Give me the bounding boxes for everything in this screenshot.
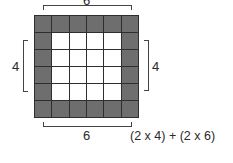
inner-cell (52, 33, 68, 49)
inner-cell (52, 84, 68, 100)
left-label: 4 (12, 60, 19, 73)
inner-cell (70, 50, 86, 66)
inner-cell (87, 67, 103, 83)
shaded-border-cell (87, 101, 103, 117)
inner-cell (104, 84, 120, 100)
inner-cell (70, 33, 86, 49)
shaded-border-cell (52, 101, 68, 117)
inner-cell (87, 84, 103, 100)
shaded-border-cell (122, 50, 138, 66)
left-bracket (23, 40, 28, 92)
bottom-bracket (43, 122, 132, 127)
shaded-border-cell (35, 67, 51, 83)
shaded-border-cell (122, 67, 138, 83)
inner-cell (104, 50, 120, 66)
shaded-border-cell (35, 101, 51, 117)
right-bracket (144, 40, 149, 91)
bottom-label: 6 (83, 129, 90, 142)
shaded-border-cell (35, 50, 51, 66)
shaded-border-cell (87, 16, 103, 32)
inner-cell (52, 67, 68, 83)
shaded-border-cell (35, 84, 51, 100)
inner-cell (52, 50, 68, 66)
shaded-border-cell (122, 33, 138, 49)
square-grid (34, 15, 139, 118)
inner-cell (87, 50, 103, 66)
inner-cell (104, 33, 120, 49)
shaded-border-cell (122, 101, 138, 117)
shaded-border-cell (35, 16, 51, 32)
shaded-border-cell (35, 33, 51, 49)
inner-cell (87, 33, 103, 49)
top-label: 6 (83, 0, 90, 7)
inner-cell (104, 67, 120, 83)
right-label: 4 (152, 60, 159, 73)
shaded-border-cell (70, 16, 86, 32)
shaded-border-cell (70, 101, 86, 117)
shaded-border-cell (104, 16, 120, 32)
inner-cell (70, 67, 86, 83)
perimeter-formula: (2 x 4) + (2 x 6) (130, 130, 215, 143)
shaded-border-cell (104, 101, 120, 117)
shaded-border-cell (52, 16, 68, 32)
shaded-border-cell (122, 16, 138, 32)
inner-cell (70, 84, 86, 100)
shaded-border-cell (122, 84, 138, 100)
